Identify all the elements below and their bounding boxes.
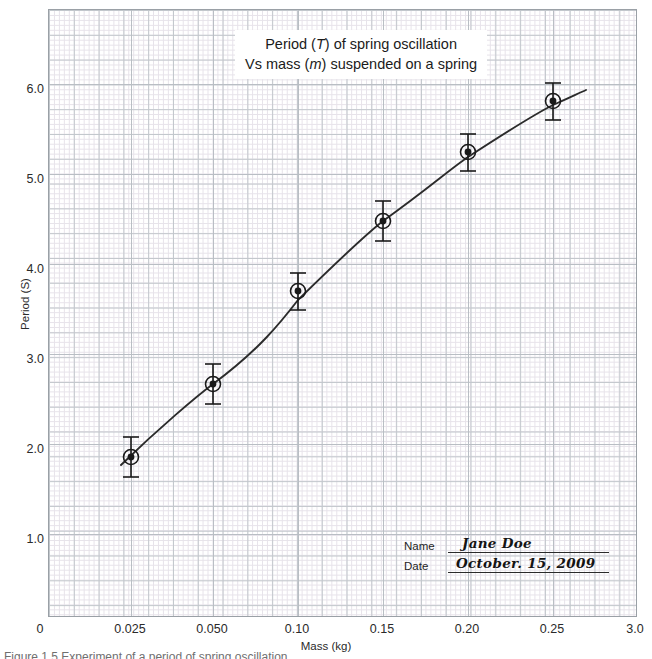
title-line2-pre: Vs mass ( [245, 56, 309, 72]
title-line2-post: ) suspended on a spring [322, 56, 478, 72]
x-tick-0050: 0.050 [196, 622, 227, 636]
signature-block: Name Jane Doe Date October. 15, 2009 [404, 537, 609, 577]
data-points [123, 83, 561, 477]
data-point-2 [205, 364, 221, 404]
signature-row-name: Name Jane Doe [404, 537, 609, 557]
data-point-4 [375, 201, 391, 241]
chart-title-line-2: Vs mass (m) suspended on a spring [245, 54, 477, 74]
name-label: Name [404, 540, 435, 552]
title-symbol-m: m [309, 56, 321, 72]
x-tick-020: 0.20 [455, 622, 479, 636]
date-label: Date [404, 560, 428, 572]
y-tick-3: 3.0 [2, 352, 44, 366]
x-axis-tick-labels: 0 0.025 0.050 0.10 0.15 0.20 0.25 3.0 [0, 622, 652, 640]
name-value: Jane Doe [462, 535, 532, 551]
y-tick-1: 1.0 [2, 532, 44, 546]
title-line1-post: ) of spring oscillation [325, 36, 457, 52]
title-symbol-T: T [316, 36, 325, 52]
x-tick-010: 0.10 [285, 622, 309, 636]
plot-area [48, 9, 637, 617]
x-tick-0: 0 [37, 622, 44, 636]
fit-curve [121, 90, 586, 465]
major-gridlines [49, 10, 637, 617]
name-rule [448, 552, 609, 553]
chart-title-line-1: Period (T) of spring oscillation [245, 34, 477, 54]
chart-page: 6.0 5.0 4.0 3.0 2.0 1.0 Period (S) [0, 0, 652, 659]
data-point-3 [290, 273, 306, 310]
y-tick-6: 6.0 [2, 82, 44, 96]
y-tick-5: 5.0 [2, 172, 44, 186]
date-rule [448, 572, 609, 573]
y-axis-title: Period (S) [19, 259, 31, 349]
signature-row-date: Date October. 15, 2009 [404, 557, 609, 577]
date-value: October. 15, 2009 [456, 555, 595, 571]
x-tick-0025: 0.025 [114, 622, 145, 636]
x-tick-025: 0.25 [540, 622, 564, 636]
x-tick-015: 0.15 [370, 622, 394, 636]
title-line1-pre: Period ( [265, 36, 316, 52]
data-point-1 [123, 437, 139, 477]
y-tick-2: 2.0 [2, 442, 44, 456]
figure-caption: Figure 1.5 Experiment of a period of spr… [4, 650, 444, 659]
chart-title: Period (T) of spring oscillation Vs mass… [235, 30, 487, 79]
x-tick-last: 3.0 [626, 622, 643, 636]
plot-svg [49, 10, 637, 617]
